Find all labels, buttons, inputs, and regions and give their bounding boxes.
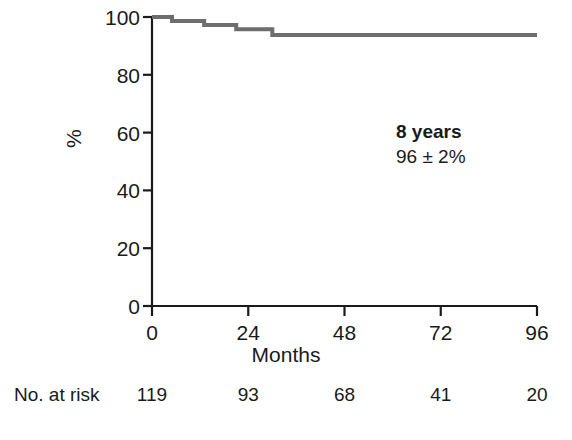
survival-chart-figure: 020406080100 024487296 % Months 8 years … — [0, 0, 572, 440]
y-axis-tick-label: 0 — [78, 296, 140, 317]
at-risk-table: No. at risk 11993684120 — [0, 384, 572, 414]
x-axis-ticks — [152, 306, 537, 316]
at-risk-count: 119 — [137, 384, 167, 406]
survival-curve — [152, 17, 537, 35]
at-risk-count: 68 — [334, 384, 355, 406]
at-risk-label: No. at risk — [14, 384, 100, 406]
y-axis-ticks — [143, 17, 152, 306]
y-axis-tick-label: 40 — [78, 180, 140, 201]
x-axis-tick-label: 24 — [237, 322, 260, 343]
at-risk-count: 41 — [430, 384, 451, 406]
at-risk-count: 93 — [238, 384, 259, 406]
at-risk-count: 20 — [526, 384, 547, 406]
y-axis-tick-label: 80 — [78, 64, 140, 85]
y-axis-tick-label: 60 — [78, 122, 140, 143]
x-axis-title: Months — [0, 343, 572, 367]
x-axis-tick-label: 72 — [429, 322, 452, 343]
x-axis-tick-label: 96 — [525, 322, 548, 343]
y-axis-tick-label: 20 — [78, 238, 140, 259]
x-axis-tick-label: 0 — [146, 322, 158, 343]
annotation-value: 96 ± 2% — [396, 144, 466, 169]
y-axis-tick-label: 100 — [78, 7, 140, 28]
x-axis-tick-label: 48 — [333, 322, 356, 343]
annotation-8-years: 8 years 96 ± 2% — [396, 119, 466, 169]
y-axis-title: % — [62, 129, 86, 148]
annotation-title: 8 years — [396, 119, 466, 144]
